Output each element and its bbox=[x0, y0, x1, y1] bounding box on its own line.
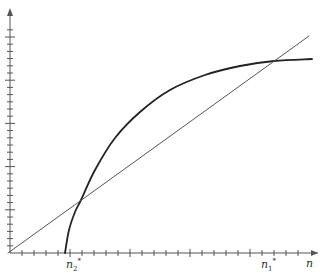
x-axis-arrow-icon bbox=[311, 250, 318, 256]
diagram-plot bbox=[0, 0, 324, 276]
x-axis-label-text: n bbox=[306, 257, 313, 270]
n1-sub: 1 bbox=[268, 265, 272, 273]
axes bbox=[5, 8, 318, 257]
n2-sub: 2 bbox=[73, 265, 77, 273]
x-axis-label: n bbox=[306, 258, 313, 269]
concave-curve bbox=[65, 59, 312, 253]
diagonal-line bbox=[8, 36, 309, 253]
series bbox=[8, 36, 312, 253]
n2-star-label: n2* bbox=[66, 258, 81, 273]
n1-sup: * bbox=[273, 257, 277, 265]
n2-sup: * bbox=[78, 257, 82, 265]
n1-star-label: n1* bbox=[261, 258, 276, 273]
y-axis-arrow-icon bbox=[7, 8, 13, 16]
